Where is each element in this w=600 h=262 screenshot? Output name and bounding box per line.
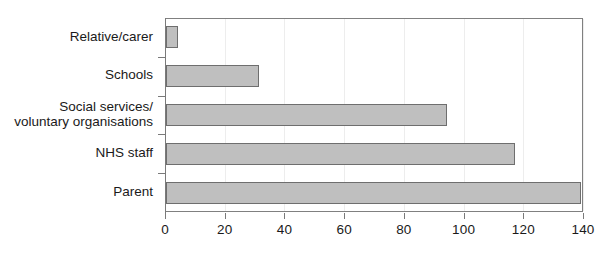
x-axis-tick (523, 213, 524, 219)
category-label-line: Parent (113, 184, 153, 200)
category-label: Social services/voluntary organisations (14, 99, 153, 130)
category-label-line: voluntary organisations (14, 114, 153, 130)
x-axis-tick (583, 213, 584, 219)
category-label: NHS staff (95, 145, 153, 161)
x-axis-tick-label: 40 (277, 222, 292, 237)
category-label-line: NHS staff (95, 145, 153, 161)
category-label-line: Relative/carer (70, 29, 153, 45)
x-axis-tick-label: 140 (571, 222, 594, 237)
bars-layer (166, 19, 583, 212)
x-axis-tick-label: 60 (336, 222, 351, 237)
x-axis-tick (464, 213, 465, 219)
bar (166, 26, 178, 48)
x-axis-tick (344, 213, 345, 219)
x-axis-tick (165, 213, 166, 219)
bar (166, 65, 259, 87)
category-label: Parent (113, 184, 153, 200)
category-tick (158, 96, 165, 97)
category-labels: Relative/carerSchoolsSocial services/vol… (0, 18, 159, 212)
category-tick (158, 134, 165, 135)
x-axis-tick (284, 213, 285, 219)
x-axis-tick-label: 80 (396, 222, 411, 237)
bar (166, 104, 447, 126)
category-tick (158, 173, 165, 174)
category-label-line: Schools (105, 67, 153, 83)
category-tick (158, 57, 165, 58)
x-axis-tick-label: 120 (512, 222, 535, 237)
x-axis-tick-label: 20 (217, 222, 232, 237)
category-label-line: Social services/ (14, 99, 153, 115)
category-label: Schools (105, 67, 153, 83)
bar (166, 143, 515, 165)
bar (166, 182, 581, 204)
x-axis-tick (225, 213, 226, 219)
x-axis-tick (404, 213, 405, 219)
bar-chart: 020406080100120140 Relative/carerSchools… (0, 0, 600, 262)
category-label: Relative/carer (70, 29, 153, 45)
x-axis-tick-label: 100 (452, 222, 475, 237)
gridline (583, 19, 584, 211)
x-axis-tick-label: 0 (161, 222, 169, 237)
